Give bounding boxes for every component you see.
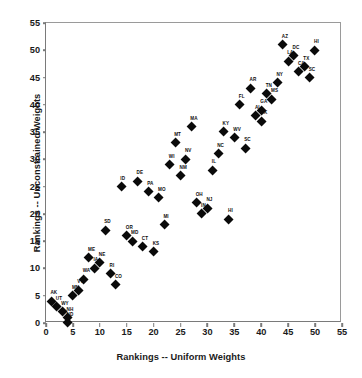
diamond-marker-icon	[310, 45, 320, 55]
diamond-marker-icon	[116, 182, 126, 192]
data-point-label: OK	[260, 110, 267, 115]
data-point-label: NH	[67, 307, 74, 312]
diamond-marker-icon	[132, 176, 142, 186]
data-point-label: ND	[67, 312, 74, 317]
data-point-label: FL	[239, 94, 245, 99]
data-point-label: KY	[223, 121, 230, 126]
diamond-marker-icon	[219, 127, 229, 137]
scatter-chart: Rankings -- Unconstrained Weights 051015…	[0, 0, 362, 378]
data-point-label: AK	[50, 290, 57, 295]
data-point-label: NM	[180, 165, 187, 170]
data-point-label: NJ	[206, 197, 212, 202]
x-tick-mark	[207, 323, 209, 327]
data-point-label: ID	[120, 176, 125, 181]
data-point-label: CO	[115, 274, 122, 279]
data-point-label: WV	[233, 127, 241, 132]
diamond-marker-icon	[224, 214, 234, 224]
data-point-label: MA	[190, 116, 197, 121]
data-point-label: DE	[136, 170, 143, 175]
data-point-label: RI	[110, 263, 115, 268]
diamond-marker-icon	[138, 242, 148, 252]
x-tick-mark	[72, 323, 74, 327]
data-point-label: DC	[293, 45, 300, 50]
data-point-label: ME	[88, 247, 95, 252]
x-tick-mark	[180, 323, 182, 327]
x-tick-mark	[126, 323, 128, 327]
diamond-marker-icon	[208, 165, 218, 175]
data-point-label: SC	[244, 137, 251, 142]
data-point-label: HI	[228, 208, 233, 213]
data-point-label: PA	[147, 181, 153, 186]
data-point-label: AZ	[282, 34, 288, 39]
diamond-marker-icon	[111, 280, 121, 290]
x-tick-mark	[234, 323, 236, 327]
diamond-marker-icon	[154, 192, 164, 202]
diamond-marker-icon	[143, 187, 153, 197]
diamond-marker-icon	[175, 171, 185, 181]
x-tick-mark	[260, 323, 262, 327]
data-point-label: SD	[104, 219, 111, 224]
diamond-marker-icon	[245, 83, 255, 93]
data-point-label: MI	[163, 214, 168, 219]
diamond-marker-icon	[159, 220, 169, 230]
diamond-marker-icon	[235, 100, 245, 110]
x-tick-mark	[45, 323, 47, 327]
data-point-label: OR	[126, 225, 133, 230]
data-point-label: MT	[174, 132, 181, 137]
x-tick-mark	[314, 323, 316, 327]
diamond-marker-icon	[278, 40, 288, 50]
data-point-label: NE	[99, 252, 106, 257]
x-tick-mark	[153, 323, 155, 327]
data-point-label: OH	[196, 192, 203, 197]
data-point-label: MO	[158, 187, 166, 192]
diamond-marker-icon	[181, 154, 191, 164]
data-point-label: IL	[212, 159, 216, 164]
diamond-marker-icon	[305, 72, 315, 82]
plot-area: 0510152025303540455055 05101520253035404…	[45, 22, 341, 322]
data-point-label: KS	[153, 241, 160, 246]
data-point-label: MD	[131, 230, 138, 235]
data-point-label: UT	[56, 296, 62, 301]
data-point-label: NY	[276, 72, 283, 77]
data-point-label: TN	[266, 83, 272, 88]
diamond-marker-icon	[272, 78, 282, 88]
x-tick-mark	[287, 323, 289, 327]
diamond-marker-icon	[213, 149, 223, 159]
diamond-marker-icon	[170, 138, 180, 148]
diamond-marker-icon	[186, 122, 196, 132]
data-point-label: NV	[185, 148, 192, 153]
data-point-label: WY	[61, 301, 69, 306]
data-point-label: SC	[309, 67, 316, 72]
diamond-marker-icon	[267, 94, 277, 104]
data-point-label: CT	[142, 236, 148, 241]
data-point-label: TX	[303, 56, 309, 61]
diamond-marker-icon	[100, 225, 110, 235]
data-points-layer: AKUTWYNHNDMNVTWAMEIANESDRICOIDORMDDECTPA…	[46, 23, 340, 321]
data-point-label: NC	[217, 143, 224, 148]
data-point-label: WI	[169, 154, 175, 159]
x-tick-mark	[99, 323, 101, 327]
diamond-marker-icon	[240, 143, 250, 153]
diamond-marker-icon	[165, 160, 175, 170]
diamond-marker-icon	[229, 132, 239, 142]
data-point-label: MS	[271, 88, 278, 93]
data-point-label: HI	[314, 39, 319, 44]
x-tick-mark	[341, 323, 343, 327]
data-point-label: AR	[250, 77, 257, 82]
diamond-marker-icon	[149, 247, 159, 257]
x-axis-title: Rankings -- Uniform Weights	[0, 352, 362, 362]
